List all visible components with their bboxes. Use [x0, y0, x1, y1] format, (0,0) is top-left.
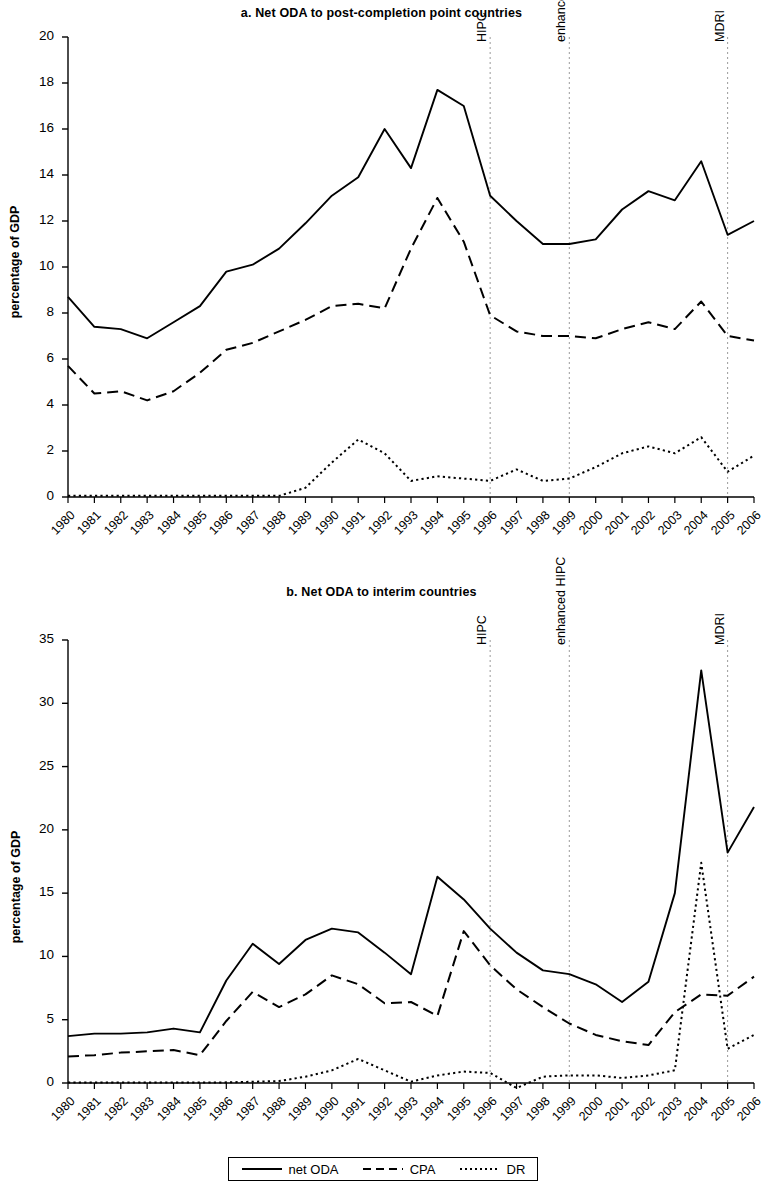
ytick-label: 25 [20, 758, 54, 773]
annotation-label-enhanced-hipc: enhanced HIPC [554, 557, 568, 645]
chart-panel-a: a. Net ODA to post-completion point coun… [0, 0, 763, 575]
legend-item-dr: DR [459, 1162, 526, 1177]
chart-panel-b: b. Net ODA to interim countries percenta… [0, 580, 763, 1185]
ytick-label: 12 [20, 212, 54, 227]
legend-label-dr: DR [507, 1162, 526, 1177]
ytick-label: 18 [20, 74, 54, 89]
ytick-label: 0 [20, 488, 54, 503]
legend-swatch-solid [241, 1165, 283, 1173]
legend-item-cpa: CPA [362, 1162, 436, 1177]
ytick-label: 10 [20, 947, 54, 962]
ytick-label: 2 [20, 442, 54, 457]
ytick-label: 10 [20, 258, 54, 273]
series-line-cpa [68, 198, 754, 400]
legend-swatch-dotted [459, 1165, 501, 1173]
ytick-label: 0 [20, 1074, 54, 1089]
ytick-label: 6 [20, 350, 54, 365]
annotation-label-hipc: HIPC [475, 615, 489, 645]
ytick-label: 4 [20, 396, 54, 411]
ytick-label: 5 [20, 1011, 54, 1026]
series-line-net-oda [68, 90, 754, 338]
ytick-label: 15 [20, 884, 54, 899]
series-line-net-oda [68, 670, 754, 1036]
ytick-label: 35 [20, 631, 54, 646]
chart-a-plot [0, 0, 763, 575]
ytick-label: 30 [20, 694, 54, 709]
annotation-label-mdri: MDRI [713, 613, 727, 645]
legend-label-net-oda: net ODA [289, 1162, 339, 1177]
ytick-label: 14 [20, 166, 54, 181]
series-line-dr [68, 437, 754, 496]
annotation-label-hipc: HIPC [475, 12, 489, 42]
legend-swatch-dashed [362, 1165, 404, 1173]
ytick-label: 20 [20, 821, 54, 836]
figure: a. Net ODA to post-completion point coun… [0, 0, 763, 1185]
legend-label-cpa: CPA [410, 1162, 436, 1177]
ytick-label: 20 [20, 28, 54, 43]
annotation-label-mdri: MDRI [713, 10, 727, 42]
legend-item-net-oda: net ODA [241, 1162, 339, 1177]
annotation-label-enhanced-hipc: enhanced HIPC [554, 0, 568, 42]
ytick-label: 8 [20, 304, 54, 319]
ytick-label: 16 [20, 120, 54, 135]
chart-legend: net ODA CPA DR [228, 1157, 538, 1181]
series-line-cpa [68, 931, 754, 1056]
